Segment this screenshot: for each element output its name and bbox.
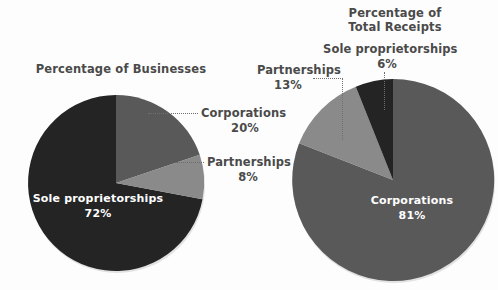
left-chart-title: Percentage of Businesses	[28, 62, 214, 76]
right-callout-partnerships-percent: 13%	[257, 78, 319, 93]
right-callout-partnerships: Partnerships 13%	[257, 63, 319, 92]
right-inside-label: Corporations 81%	[352, 194, 472, 223]
left-callout-corporations-percent: 20%	[201, 121, 289, 136]
right-leader-sole-proprietorships	[384, 72, 385, 110]
left-callout-partnerships: Partnerships 8%	[207, 155, 291, 184]
left-callout-partnerships-percent: 8%	[207, 170, 289, 185]
chart-canvas: Percentage of Businesses Corporations 20…	[0, 0, 498, 290]
left-inside-label-name: Sole proprietorships	[33, 192, 164, 205]
right-inside-label-name: Corporations	[371, 194, 454, 207]
left-inside-label: Sole proprietorships 72%	[28, 192, 168, 221]
left-callout-corporations-name: Corporations	[201, 106, 286, 120]
right-callout-sole-proprietorships-name: Sole proprietorships	[323, 42, 458, 56]
left-inside-label-percent: 72%	[28, 207, 168, 222]
left-callout-corporations: Corporations 20%	[201, 106, 289, 135]
right-chart-title-line2: Total Receipts	[330, 20, 460, 34]
right-pie-chart	[291, 78, 497, 284]
left-pie-chart	[27, 94, 205, 272]
right-callout-sole-proprietorships: Sole proprietorships 6%	[323, 42, 451, 71]
right-chart-title-line1: Percentage of	[330, 6, 460, 20]
left-leader-corporations	[148, 113, 198, 114]
left-leader-partnerships	[176, 162, 204, 163]
right-callout-sole-proprietorships-percent: 6%	[323, 57, 451, 72]
left-callout-partnerships-name: Partnerships	[207, 155, 291, 169]
right-leader-partnerships-vertical	[342, 78, 343, 140]
right-inside-label-percent: 81%	[352, 209, 472, 224]
